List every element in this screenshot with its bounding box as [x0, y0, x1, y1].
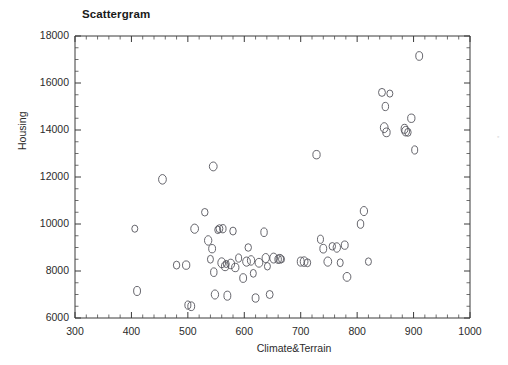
- data-point: [387, 90, 393, 97]
- data-point: [341, 241, 348, 249]
- data-point: [134, 286, 141, 295]
- data-point: [266, 291, 273, 299]
- data-point: [343, 272, 351, 281]
- data-point: [211, 290, 218, 299]
- data-point: [247, 256, 254, 266]
- data-point: [202, 208, 208, 216]
- data-point: [159, 175, 167, 185]
- data-point: [333, 243, 340, 253]
- data-point: [255, 258, 263, 267]
- data-point: [408, 114, 415, 122]
- data-point: [412, 146, 418, 154]
- data-point: [382, 102, 388, 110]
- data-point: [224, 291, 231, 300]
- data-point: [402, 126, 410, 136]
- data-point: [337, 259, 343, 267]
- data-point: [250, 269, 256, 277]
- data-point: [357, 220, 363, 229]
- data-point: [211, 268, 217, 277]
- plot-area: [0, 0, 508, 365]
- data-point: [236, 254, 242, 262]
- data-point: [240, 274, 247, 283]
- data-point: [252, 294, 259, 302]
- data-point: [183, 261, 190, 269]
- data-point: [205, 236, 212, 246]
- data-point: [230, 227, 236, 235]
- data-point: [262, 254, 269, 263]
- data-point: [264, 263, 270, 270]
- data-point: [209, 162, 217, 171]
- data-point: [365, 258, 371, 265]
- data-point: [245, 244, 251, 252]
- data-points: [132, 52, 423, 311]
- data-point: [207, 255, 213, 263]
- data-point: [320, 244, 327, 253]
- data-point: [232, 263, 239, 271]
- data-point: [132, 225, 138, 232]
- data-point: [209, 245, 216, 253]
- axis-ticks: [75, 36, 470, 318]
- scattergram-figure: Scattergram Housing Climate&Terrain 6000…: [0, 0, 508, 365]
- data-point: [416, 52, 423, 61]
- data-point: [173, 261, 179, 269]
- data-point: [360, 207, 367, 216]
- data-point: [379, 88, 386, 96]
- data-point: [317, 235, 323, 243]
- data-point: [261, 228, 267, 237]
- axis-lines: [75, 36, 470, 318]
- data-point: [324, 257, 332, 266]
- artifact-speck: ◦: [497, 133, 499, 140]
- data-point: [191, 224, 199, 233]
- data-point: [313, 150, 320, 158]
